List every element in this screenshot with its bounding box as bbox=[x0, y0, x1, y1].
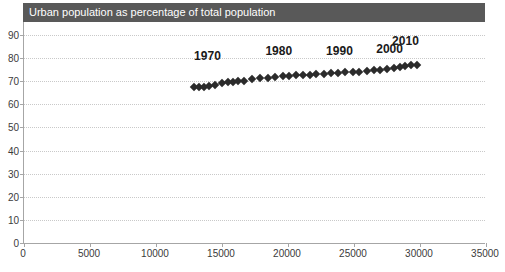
decade-annotation-2010: 2010 bbox=[392, 34, 419, 48]
y-axis-tick-label: 70 bbox=[0, 76, 19, 87]
x-axis-tick-label: 35000 bbox=[471, 248, 499, 259]
x-axis-tick-label: 10000 bbox=[141, 248, 169, 259]
x-axis-tick bbox=[90, 243, 91, 247]
x-axis-tick bbox=[420, 243, 421, 247]
x-axis-tick-label: 30000 bbox=[405, 248, 433, 259]
chart-title: Urban population as percentage of total … bbox=[29, 5, 275, 20]
x-axis-tick bbox=[486, 243, 487, 247]
x-axis-tick-label: 15000 bbox=[207, 248, 235, 259]
decade-annotation-1970: 1970 bbox=[194, 49, 221, 63]
gridline-horizontal bbox=[24, 197, 485, 198]
y-axis-tick-label: 20 bbox=[0, 191, 19, 202]
x-axis-tick-label: 5000 bbox=[78, 248, 100, 259]
y-axis-tick bbox=[20, 220, 24, 221]
x-axis-tick bbox=[222, 243, 223, 247]
y-axis-tick-label: 60 bbox=[0, 99, 19, 110]
gridline-horizontal bbox=[24, 127, 485, 128]
decade-annotation-1980: 1980 bbox=[265, 44, 292, 58]
x-axis-tick bbox=[156, 243, 157, 247]
gridline-horizontal bbox=[24, 58, 485, 59]
y-axis-tick bbox=[20, 81, 24, 82]
data-point-marker bbox=[412, 61, 420, 69]
x-axis-tick bbox=[24, 243, 25, 247]
y-axis-tick bbox=[20, 151, 24, 152]
y-axis-tick-label: 30 bbox=[0, 168, 19, 179]
gridline-horizontal bbox=[24, 104, 485, 105]
x-axis-tick-label: 0 bbox=[20, 248, 26, 259]
chart-title-bar: Urban population as percentage of total … bbox=[23, 3, 485, 22]
y-axis-tick bbox=[20, 174, 24, 175]
x-axis-tick-label: 20000 bbox=[273, 248, 301, 259]
y-axis-tick bbox=[20, 127, 24, 128]
x-axis-tick bbox=[354, 243, 355, 247]
y-axis-tick bbox=[20, 58, 24, 59]
y-axis-labels: 0102030405060708090 bbox=[0, 22, 19, 244]
gridline-horizontal bbox=[24, 174, 485, 175]
y-axis-tick-label: 40 bbox=[0, 145, 19, 156]
y-axis-tick-label: 0 bbox=[0, 238, 19, 249]
decade-annotation-1990: 1990 bbox=[326, 44, 353, 58]
y-axis-tick-label: 10 bbox=[0, 214, 19, 225]
data-point-marker bbox=[355, 67, 363, 75]
gridline-horizontal bbox=[24, 81, 485, 82]
clipped-header-text bbox=[24, 0, 224, 2]
chart-container: Urban population as percentage of total … bbox=[0, 0, 505, 272]
gridline-horizontal bbox=[24, 220, 485, 221]
x-axis-labels: 05000100001500020000250003000035000 bbox=[23, 248, 485, 264]
y-axis-tick bbox=[20, 197, 24, 198]
x-axis-tick bbox=[288, 243, 289, 247]
y-axis-tick bbox=[20, 104, 24, 105]
plot-area: 19701980199020002010 bbox=[23, 22, 485, 244]
gridline-horizontal bbox=[24, 151, 485, 152]
y-axis-tick-label: 90 bbox=[0, 30, 19, 41]
y-axis-tick-label: 80 bbox=[0, 53, 19, 64]
y-axis-tick bbox=[20, 35, 24, 36]
x-axis-tick-label: 25000 bbox=[339, 248, 367, 259]
data-point-marker bbox=[248, 75, 256, 83]
y-axis-tick-label: 50 bbox=[0, 122, 19, 133]
